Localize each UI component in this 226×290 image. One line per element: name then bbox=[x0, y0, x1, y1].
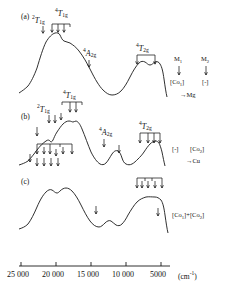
site-arrow-right bbox=[205, 66, 208, 75]
bracket-a-4T1g bbox=[52, 24, 70, 27]
marker-arrow-c-12 bbox=[136, 181, 139, 188]
term-label-a-4T1g: 4T1g bbox=[55, 8, 68, 19]
term-label-a-4A2g: 4A2g bbox=[83, 48, 96, 59]
marker-arrow-a-6 bbox=[136, 58, 139, 64]
spectra-figure: (a) (b) (c) 2T1g 4T1g 4A2g 4T2g 2T1g 4T1… bbox=[0, 0, 226, 290]
marker-arrow-b-12 bbox=[159, 136, 162, 143]
term-label-a-4T2g: 4T2g bbox=[136, 43, 149, 54]
marker-arrow-b-3 bbox=[48, 115, 51, 123]
curve-c bbox=[19, 188, 168, 233]
site-arrows bbox=[178, 66, 208, 75]
marker-arrow-c-6 bbox=[71, 147, 74, 154]
bracket-c-right bbox=[137, 178, 162, 181]
marker-arrow-a-3 bbox=[57, 27, 60, 32]
marker-arrow-b-8 bbox=[118, 145, 121, 153]
legend-row-b-right: [Co2] bbox=[190, 146, 204, 155]
legend-row-a-right: [-] bbox=[202, 79, 209, 86]
site-arrow-left bbox=[178, 66, 181, 75]
marker-arrow-a-5 bbox=[87, 60, 90, 67]
legend-row-a-left: [Co1] bbox=[170, 79, 184, 88]
marker-arrow-c-15 bbox=[154, 181, 157, 188]
xtick-label-15000: 15 000 bbox=[77, 270, 99, 279]
term-label-b-4A2g: 4A2g bbox=[99, 127, 112, 138]
term-label-b-4T1g: 4T1g bbox=[63, 90, 76, 101]
marker-arrow-a-7 bbox=[154, 58, 157, 64]
marker-arrow-a-4 bbox=[63, 27, 66, 32]
assignment-markers-c bbox=[29, 144, 164, 216]
legend-row-a-arrow: →Mg bbox=[180, 92, 196, 99]
panel-label-a: (a) bbox=[21, 13, 29, 21]
site-label-m1: M1 bbox=[174, 56, 182, 65]
curve-c-group bbox=[19, 188, 168, 233]
legend-row-c: [Co1]+[Co2] bbox=[172, 212, 204, 221]
marker-arrow-c-10 bbox=[50, 158, 53, 166]
marker-arrow-b-9 bbox=[139, 136, 142, 143]
marker-arrow-c-2 bbox=[43, 147, 46, 154]
marker-arrow-b-4 bbox=[54, 115, 57, 123]
marker-arrow-c-13 bbox=[141, 181, 144, 188]
term-label-b-2T1g: 2T1g bbox=[37, 104, 50, 115]
marker-arrow-c-11 bbox=[57, 158, 60, 166]
bracket-b-4T2g bbox=[140, 133, 160, 136]
x-axis-unit-label: (cm-1) bbox=[178, 270, 197, 281]
marker-arrow-a-2 bbox=[51, 27, 54, 32]
xtick-label-20000: 20 000 bbox=[42, 270, 64, 279]
marker-arrow-c-9 bbox=[43, 158, 46, 166]
marker-arrow-c-5 bbox=[62, 147, 65, 154]
marker-arrow-c-18 bbox=[157, 208, 160, 216]
bracket-b-4T1g bbox=[62, 102, 82, 105]
marker-arrow-c-16 bbox=[161, 181, 164, 188]
marker-arrow-a-1 bbox=[41, 26, 44, 33]
marker-arrow-c-17 bbox=[95, 206, 98, 214]
marker-arrow-b-2 bbox=[75, 105, 78, 112]
marker-arrow-c-14 bbox=[147, 181, 150, 188]
marker-arrow-c-4 bbox=[55, 149, 58, 156]
panel-label-b: (b) bbox=[21, 113, 30, 121]
marker-arrow-b-10 bbox=[147, 136, 150, 143]
xtick-label-10000: 10 000 bbox=[112, 270, 134, 279]
term-label-b-4T2g: 4T2g bbox=[139, 121, 152, 132]
marker-arrow-b-7 bbox=[103, 139, 106, 147]
marker-arrow-c-3 bbox=[49, 147, 52, 154]
panel-label-c: (c) bbox=[21, 178, 29, 186]
xtick-label-5000: 5000 bbox=[150, 270, 166, 279]
xtick-label-25000: 25 000 bbox=[7, 270, 29, 279]
marker-arrow-b-5 bbox=[60, 113, 63, 120]
site-label-m2: M2 bbox=[201, 56, 209, 65]
legend-row-b-arrow: →Cu bbox=[186, 158, 200, 165]
marker-arrow-b-6 bbox=[36, 127, 39, 136]
marker-arrow-c-8 bbox=[36, 158, 39, 166]
term-label-a-2T1g: 2T1g bbox=[32, 15, 45, 26]
legend-row-b-left: [-] bbox=[172, 146, 179, 153]
bracket-a-4T2g bbox=[137, 55, 155, 58]
x-axis bbox=[19, 262, 170, 266]
marker-arrow-b-1 bbox=[69, 105, 72, 112]
